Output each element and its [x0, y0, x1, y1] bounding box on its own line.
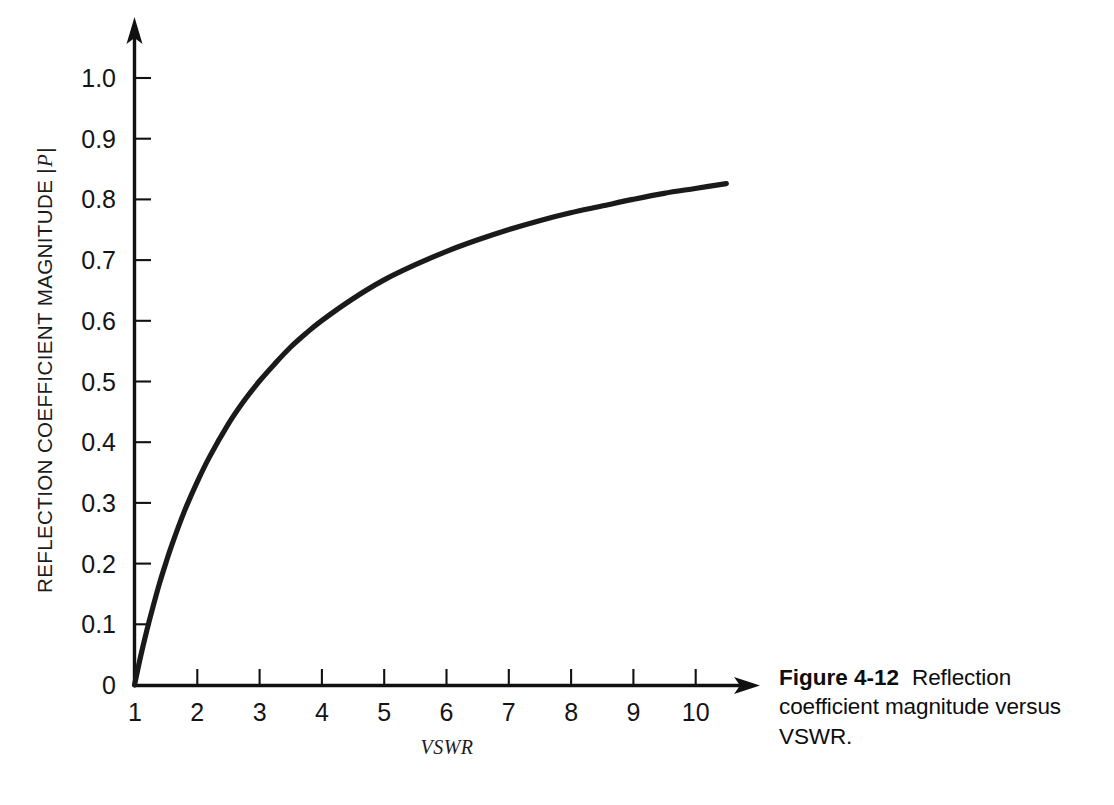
figure-caption: Figure 4-12Reflection coefficient magnit…: [779, 663, 1099, 751]
x-tick-label-4: 4: [302, 700, 342, 725]
y-axis-title-suffix: |: [33, 147, 56, 153]
figure-caption-label: Figure 4-12: [779, 665, 899, 690]
x-tick-label-10: 10: [676, 700, 716, 725]
plot-area: 0 0.1 0.2 0.3 0.4 0.5 0.6 0.7 0.8 0.9 1.…: [0, 0, 790, 805]
x-tick-label-1: 1: [115, 700, 155, 725]
x-tick-label-7: 7: [489, 700, 529, 725]
x-tick-label-5: 5: [364, 700, 404, 725]
x-tick-labels: 1 2 3 4 5 6 7 8 9 10: [0, 0, 790, 805]
figure-4-12: 0 0.1 0.2 0.3 0.4 0.5 0.6 0.7 0.8 0.9 1.…: [0, 0, 1114, 805]
y-axis-title-symbol: P: [33, 153, 57, 168]
x-tick-label-6: 6: [427, 700, 467, 725]
x-tick-label-8: 8: [551, 700, 591, 725]
x-tick-label-2: 2: [177, 700, 217, 725]
x-tick-label-3: 3: [240, 700, 280, 725]
x-axis-title: VSWR: [420, 736, 473, 759]
y-axis-title-prefix: REFLECTION COEFFICIENT MAGNITUDE |: [33, 168, 56, 593]
x-tick-label-9: 9: [613, 700, 653, 725]
y-axis-title: REFLECTION COEFFICIENT MAGNITUDE |P|: [33, 147, 58, 593]
